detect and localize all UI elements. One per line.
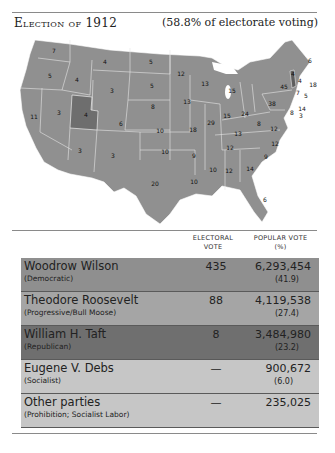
ev-label-fl: 6 bbox=[263, 196, 267, 203]
ev-label-tx: 20 bbox=[151, 180, 159, 187]
candidate-name: Eugene V. Debs bbox=[24, 361, 114, 375]
electoral-vote: — bbox=[196, 362, 236, 375]
ev-label-nh: 4 bbox=[298, 77, 302, 84]
ev-label-ia: 13 bbox=[183, 98, 191, 105]
ev-label-nc: 12 bbox=[271, 140, 279, 147]
popular-percent: (41.9) bbox=[275, 275, 299, 284]
column-header-popular-vote: POPULAR VOTE (%) bbox=[243, 234, 318, 252]
ev-label-ky: 13 bbox=[234, 130, 242, 137]
ev-label-or: 5 bbox=[48, 72, 52, 79]
top-rule bbox=[12, 12, 317, 13]
ev-label-la: 10 bbox=[190, 178, 198, 185]
ev-label-oh: 24 bbox=[241, 110, 249, 117]
popular-percent: (27.4) bbox=[275, 309, 299, 318]
popular-percent: (6.0) bbox=[274, 377, 293, 386]
electoral-vote: 435 bbox=[196, 260, 236, 273]
bottom-rule bbox=[12, 433, 317, 434]
ev-label-de: 3 bbox=[299, 112, 303, 119]
chart-title: Election of 1912 bbox=[14, 16, 117, 30]
ev-label-md: 8 bbox=[290, 109, 294, 116]
popular-vote: 4,119,538 bbox=[255, 294, 311, 307]
popular-vote: 6,293,454 bbox=[255, 260, 311, 273]
candidate-name: Woodrow Wilson bbox=[24, 259, 118, 273]
ev-label-ct: 7 bbox=[296, 89, 300, 96]
ev-label-id: 4 bbox=[75, 76, 79, 83]
column-header-popular-line2: (%) bbox=[243, 243, 318, 252]
table-row-wilson: Woodrow Wilson (Democratic) 435 6,293,45… bbox=[21, 258, 319, 292]
ev-label-wa: 7 bbox=[52, 47, 56, 54]
ev-label-ma: 18 bbox=[309, 81, 317, 88]
candidate-name: William H. Taft bbox=[24, 327, 106, 341]
candidate-party: (Republican) bbox=[24, 342, 71, 351]
popular-vote: 3,484,980 bbox=[255, 328, 311, 341]
ev-label-pa: 38 bbox=[268, 100, 276, 107]
ev-label-va: 12 bbox=[270, 125, 278, 132]
ev-label-al: 12 bbox=[225, 167, 233, 174]
ev-label-mn: 12 bbox=[177, 70, 185, 77]
candidate-party: (Prohibition; Socialist Labor) bbox=[24, 410, 129, 419]
ev-label-mt: 4 bbox=[103, 58, 107, 65]
ev-label-me: 6 bbox=[308, 57, 312, 64]
ev-label-sc: 9 bbox=[264, 153, 268, 160]
column-header-electoral-vote: ELECTORAL VOTE bbox=[188, 234, 238, 252]
ev-label-nj: 14 bbox=[298, 105, 306, 112]
ev-label-ok: 10 bbox=[161, 148, 169, 155]
ev-label-az: 3 bbox=[78, 147, 82, 154]
table-row-other-parties: Other parties (Prohibition; Socialist La… bbox=[21, 394, 319, 428]
ev-label-ms: 10 bbox=[209, 166, 217, 173]
table-row-taft: William H. Taft (Republican) 8 3,484,980… bbox=[21, 326, 319, 360]
candidate-name: Other parties bbox=[24, 395, 100, 409]
electoral-vote: 88 bbox=[196, 294, 236, 307]
ev-label-ut: 4 bbox=[84, 111, 88, 118]
ev-label-nd: 5 bbox=[149, 58, 153, 65]
candidate-party: (Socialist) bbox=[24, 376, 61, 385]
electoral-vote: 8 bbox=[196, 328, 236, 341]
column-header-popular-line1: POPULAR VOTE bbox=[243, 234, 318, 243]
table-row-roosevelt: Theodore Roosevelt (Progressive/Bull Moo… bbox=[21, 292, 319, 326]
ev-label-wy: 3 bbox=[110, 87, 114, 94]
ev-label-co: 6 bbox=[119, 120, 123, 127]
ev-label-ny: 45 bbox=[280, 83, 288, 90]
ev-label-ri: 5 bbox=[304, 92, 308, 99]
chart-subtitle: (58.8% of electorate voting) bbox=[162, 16, 318, 29]
ev-label-ar: 9 bbox=[192, 152, 196, 159]
candidate-party: (Progressive/Bull Moose) bbox=[24, 308, 116, 317]
candidate-party: (Democratic) bbox=[24, 274, 73, 283]
ev-label-ks: 10 bbox=[156, 127, 164, 134]
ev-label-ne: 8 bbox=[151, 103, 155, 110]
us-electoral-map: 7 5 11 4 3 4 3 4 3 6 3 5 5 8 10 10 20 12… bbox=[0, 30, 335, 230]
column-header-electoral-line2: VOTE bbox=[188, 243, 238, 252]
ev-label-wv: 8 bbox=[257, 120, 261, 127]
ev-label-sd: 5 bbox=[150, 82, 154, 89]
ev-label-ga: 14 bbox=[246, 165, 254, 172]
ev-label-nm: 3 bbox=[111, 152, 115, 159]
popular-vote: 235,025 bbox=[266, 396, 312, 409]
popular-percent: (23.2) bbox=[275, 343, 299, 352]
ev-label-in: 15 bbox=[223, 112, 231, 119]
ev-label-nv: 3 bbox=[57, 109, 61, 116]
table-row-debs: Eugene V. Debs (Socialist) — 900,672 (6.… bbox=[21, 360, 319, 394]
column-header-electoral-line1: ELECTORAL bbox=[188, 234, 238, 243]
ev-label-mo: 18 bbox=[189, 126, 197, 133]
table-top-rule bbox=[12, 230, 317, 231]
ev-label-tn: 12 bbox=[226, 144, 234, 151]
ev-label-mi: 15 bbox=[228, 87, 236, 94]
electoral-vote: — bbox=[196, 396, 236, 409]
candidate-name: Theodore Roosevelt bbox=[24, 293, 138, 307]
ev-label-vt: 4 bbox=[291, 70, 295, 77]
ev-label-wi: 13 bbox=[201, 80, 209, 87]
popular-vote: 900,672 bbox=[266, 362, 312, 375]
ev-label-ca: 11 bbox=[30, 113, 38, 120]
ev-label-il: 29 bbox=[207, 119, 215, 126]
